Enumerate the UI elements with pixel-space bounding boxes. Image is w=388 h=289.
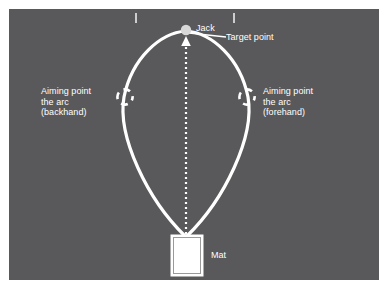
up-arrowhead-icon — [181, 36, 191, 46]
diagram-canvas — [0, 0, 388, 289]
mat-inner-face — [174, 238, 201, 274]
mat-label: Mat — [211, 250, 226, 261]
target-point-label: Target point — [226, 32, 274, 43]
jack-label: Jack — [196, 23, 215, 34]
aiming-point-forehand-label: Aiming point the arc (forehand) — [263, 86, 313, 118]
aiming-point-backhand-label: Aiming point the arc (backhand) — [41, 86, 91, 118]
forehand-arc-path — [186, 31, 249, 236]
backhand-arc-path — [123, 31, 186, 236]
diagram-root: Jack Target point Aiming point the arc (… — [0, 0, 388, 289]
jack-marker-icon — [181, 25, 191, 35]
